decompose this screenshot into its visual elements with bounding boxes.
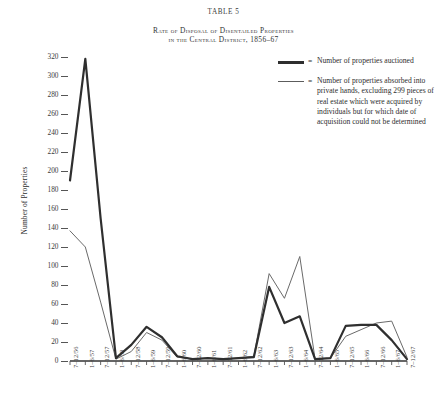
chart-plot-area — [0, 0, 447, 419]
series-line-auctioned — [70, 59, 407, 359]
chart-figure: TABLE 5 Rate of Disposal of Disentailed … — [0, 0, 447, 419]
series-line-absorbed — [70, 231, 407, 359]
